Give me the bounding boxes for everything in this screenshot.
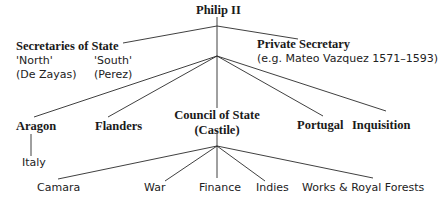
node-indies: Indies: [256, 182, 289, 193]
node-portugal: Portugal: [297, 119, 344, 132]
node-italy: Italy: [22, 157, 46, 168]
council-of-state-castile: (Castile): [167, 124, 267, 137]
node-war: War: [144, 182, 165, 193]
node-secretaries-of-state: Secretaries of State: [16, 40, 119, 53]
node-camara: Camara: [37, 182, 80, 193]
node-philip-ii: Philip II: [196, 4, 241, 17]
label-de-zayas: (De Zayas): [16, 69, 77, 80]
council-of-state-title: Council of State: [167, 109, 267, 122]
node-finance: Finance: [199, 182, 241, 193]
label-south: 'South': [94, 55, 132, 66]
label-perez: (Perez): [94, 69, 132, 80]
connector-portugal: [217, 56, 323, 116]
node-private-secretary: Private Secretary: [257, 38, 350, 51]
label-north: 'North': [16, 55, 53, 66]
node-aragon: Aragon: [16, 120, 56, 133]
node-council-of-state: Council of State (Castile): [167, 109, 267, 136]
node-works-royal-forests: Works & Royal Forests: [302, 182, 424, 193]
node-flanders: Flanders: [95, 120, 142, 133]
connector-secretaries: [123, 26, 217, 43]
connector-works: [217, 146, 373, 178]
label-mateo-vazquez: (e.g. Mateo Vazquez 1571–1593): [257, 53, 438, 64]
node-inquisition: Inquisition: [352, 119, 410, 132]
